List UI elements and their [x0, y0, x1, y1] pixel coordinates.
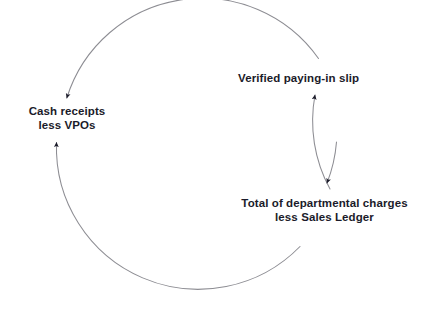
node-label-line: less Sales Ledger	[222, 210, 427, 224]
node-label-line: Total of departmental charges	[222, 196, 427, 210]
arrow-slip-down-to-total-charges	[327, 142, 337, 183]
node-cash-receipts: Cash receipts less VPOs	[12, 104, 122, 132]
arrow-total-charges-to-slip	[313, 95, 330, 189]
node-label-line: Cash receipts	[12, 104, 122, 118]
diagram-canvas: Verified paying-in slip Cash receipts le…	[0, 0, 440, 320]
node-total-departmental-charges: Total of departmental charges less Sales…	[222, 196, 427, 224]
node-verified-paying-in-slip: Verified paying-in slip	[238, 71, 398, 85]
node-label-line: less VPOs	[12, 118, 122, 132]
node-label-line: Verified paying-in slip	[238, 71, 398, 85]
cycle-arcs	[0, 0, 440, 320]
